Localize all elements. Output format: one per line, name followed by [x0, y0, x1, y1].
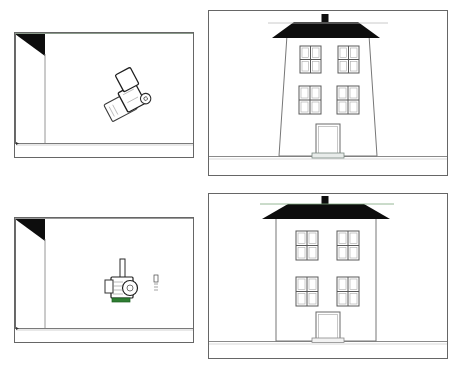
window-upper-right[interactable]: [338, 46, 359, 73]
machine-base: [112, 298, 130, 302]
panel-interior-bottom[interactable]: [14, 217, 194, 343]
window-upper-left[interactable]: [300, 46, 321, 73]
front-door[interactable]: [312, 312, 344, 343]
machine-side-panel: [105, 280, 113, 293]
window-lower-right[interactable]: [337, 277, 359, 306]
chimney: [322, 14, 329, 23]
window-upper-left[interactable]: [296, 231, 318, 260]
sketch-sheet: [0, 0, 461, 368]
window-lower-left[interactable]: [296, 277, 318, 306]
machine-drum: [123, 281, 138, 296]
window-upper-right[interactable]: [337, 231, 359, 260]
interior-bottom-drawing: [14, 217, 194, 343]
panel-exterior-top[interactable]: [208, 10, 448, 176]
window-lower-right[interactable]: [337, 86, 359, 114]
door-step: [312, 338, 344, 343]
interior-top-drawing: [14, 32, 194, 158]
door-step: [312, 153, 344, 158]
door-leaf: [319, 315, 338, 342]
door-leaf: [319, 127, 338, 157]
panel-exterior-bottom[interactable]: [208, 193, 448, 359]
exterior-bottom-drawing: [208, 193, 448, 359]
front-door[interactable]: [312, 124, 344, 158]
exterior-top-drawing: [208, 10, 448, 176]
scale-marker-box: [154, 275, 158, 282]
window-lower-left[interactable]: [299, 86, 321, 114]
panel-interior-top[interactable]: [14, 32, 194, 158]
